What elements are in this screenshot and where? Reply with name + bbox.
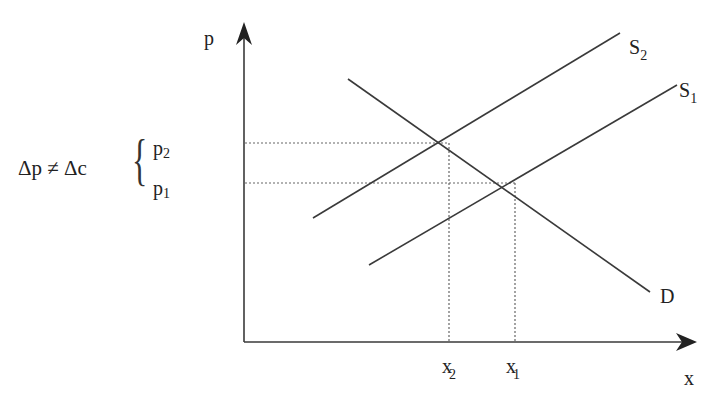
annotation-delta-p-neq-delta-c: Δp ≠ Δc bbox=[18, 158, 87, 179]
p1-subscript: 1 bbox=[163, 186, 170, 201]
supply-curve-s2 bbox=[313, 33, 620, 218]
y-axis-label: p bbox=[204, 28, 214, 48]
p2-price-label: p2 bbox=[153, 138, 170, 158]
x2-tick-label: x2 bbox=[442, 356, 456, 376]
x2-subscript: 2 bbox=[449, 367, 456, 382]
x1-tick-label: x1 bbox=[506, 356, 520, 376]
s1-letter: S bbox=[679, 79, 690, 101]
curve-label-s2: S2 bbox=[629, 37, 647, 57]
s1-subscript: 1 bbox=[690, 91, 697, 106]
s2-letter: S bbox=[629, 36, 640, 58]
demand-curve bbox=[348, 79, 650, 292]
brace-icon: { bbox=[132, 131, 147, 189]
p1-price-label: p1 bbox=[153, 178, 170, 198]
supply-curve-s1 bbox=[369, 85, 677, 265]
curve-label-s1: S1 bbox=[679, 80, 697, 100]
p2-subscript: 2 bbox=[163, 146, 170, 161]
supply-demand-diagram bbox=[0, 0, 717, 400]
p2-letter: p bbox=[153, 137, 163, 159]
s2-subscript: 2 bbox=[640, 48, 647, 63]
x-axis-label: x bbox=[684, 368, 694, 388]
p1-letter: p bbox=[153, 177, 163, 199]
x1-subscript: 1 bbox=[513, 367, 520, 382]
curve-label-d: D bbox=[660, 286, 674, 306]
